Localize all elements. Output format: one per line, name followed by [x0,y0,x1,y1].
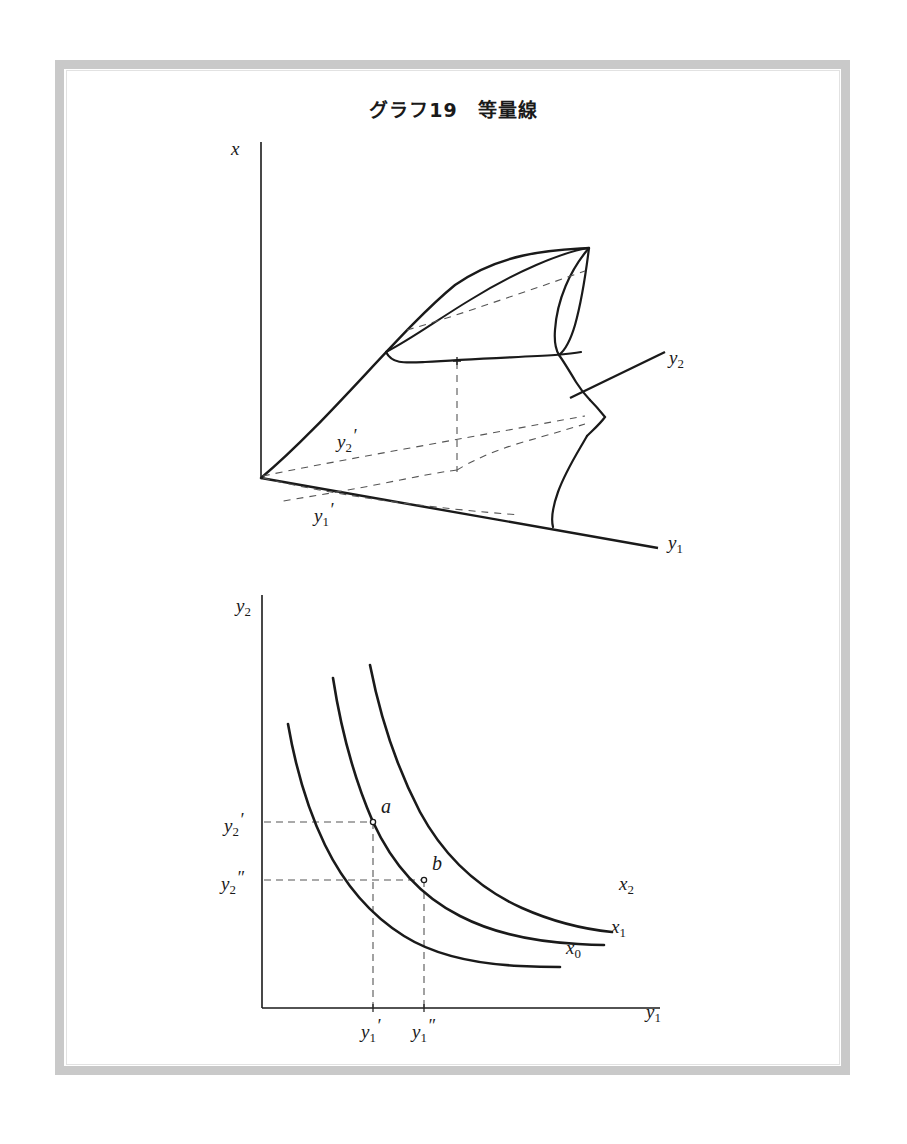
isoquant-curve-x1 [333,678,604,945]
tick-label-y1-doubleprime: y1″ [412,1017,435,1045]
tick-label-y1-prime: y1′ [361,1017,380,1045]
point-label-a: a [381,796,391,816]
tick-label-y2-doubleprime: y2″ [221,869,244,897]
isoquant-axis-label-y1: y1 [646,1002,661,1025]
curve-label-x1: x1 [611,917,626,940]
point-marker-b [421,877,426,882]
isoquant-curve-x2 [370,665,612,932]
isoquant-axis-label-y2: y2 [236,596,251,619]
point-label-b: b [432,853,442,873]
curve-label-x0: x0 [566,938,581,961]
figure-page: グラフ19 等量線 [0,0,907,1144]
curve-label-x2: x2 [619,874,634,897]
bottom-panel-drawing [0,0,907,1144]
point-marker-a [370,819,375,824]
tick-label-y2-prime: y2′ [224,811,243,839]
